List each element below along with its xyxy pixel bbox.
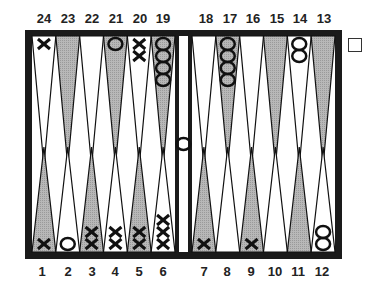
bar[interactable] bbox=[179, 36, 188, 252]
doubling-cube[interactable] bbox=[348, 38, 362, 52]
backgammon-board[interactable] bbox=[0, 0, 382, 292]
